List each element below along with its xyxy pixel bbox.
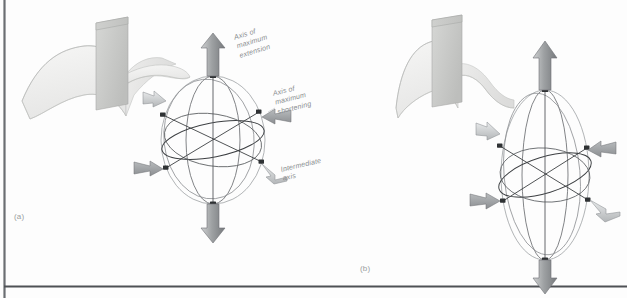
folded-sheet-a <box>22 17 190 119</box>
arrow-intermediate-left-b <box>476 122 500 140</box>
arrow-max-shortening-left-b <box>470 193 500 209</box>
arrow-max-shortening-right-b <box>588 141 616 157</box>
panel-letter-a: (a) <box>14 212 24 221</box>
axial-plane-a <box>96 17 128 110</box>
arrow-max-shortening-right-a <box>262 109 291 124</box>
axis-node-set-b <box>497 88 591 263</box>
arrow-max-extension-up-a <box>201 33 225 76</box>
arrow-max-extension-down-a <box>201 204 225 243</box>
arrow-max-shortening-left-a <box>134 161 163 176</box>
arrow-max-extension-up-b <box>533 41 557 90</box>
arrow-max-extension-down-b <box>533 260 557 294</box>
panel-b-illustration <box>396 15 620 294</box>
panel-letter-b: (b) <box>360 264 370 273</box>
arrow-intermediate-right-a <box>262 164 287 184</box>
panel-a-illustration <box>22 17 291 243</box>
figure-illustration <box>0 0 627 298</box>
axial-plane-b <box>432 15 462 107</box>
arrow-intermediate-right-b <box>590 200 620 222</box>
figure-container: Axis of maximum extension Axis of maximu… <box>0 0 627 298</box>
arrow-intermediate-left-a <box>143 91 166 107</box>
strain-ellipsoid-b <box>470 41 620 294</box>
folded-sheet-b <box>396 15 514 118</box>
